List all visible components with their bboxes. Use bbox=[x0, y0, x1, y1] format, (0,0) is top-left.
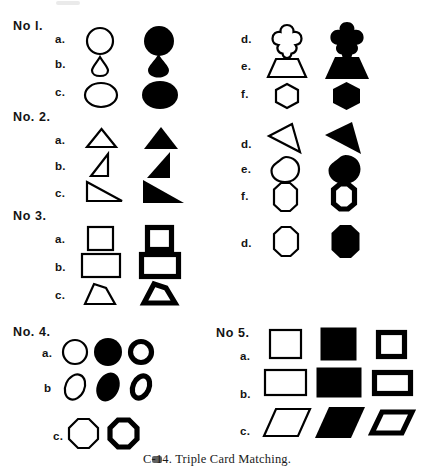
shape-no3-a-outline bbox=[86, 225, 115, 252]
shape-no2-c-outline bbox=[84, 180, 124, 203]
shape-no3-d-solid bbox=[330, 224, 361, 259]
shape-no2-d-outline bbox=[266, 122, 302, 154]
row-label-no2-e: e. bbox=[241, 163, 251, 175]
shape-no1-a-solid bbox=[143, 25, 175, 57]
group-label-no-1: No l. bbox=[13, 19, 43, 33]
shape-no4-b-thick bbox=[128, 372, 154, 402]
shape-no1-d-outline bbox=[269, 22, 305, 60]
shape-no2-b-outline bbox=[88, 152, 112, 178]
shape-no4-a-outline bbox=[61, 338, 89, 366]
shape-no3-d-outline bbox=[272, 225, 300, 258]
shape-no2-c-solid bbox=[142, 179, 185, 204]
shape-no1-a-outline bbox=[85, 26, 115, 56]
shape-no4-c-thick bbox=[106, 416, 141, 451]
shape-no4-a-solid bbox=[93, 337, 123, 367]
shape-no2-a-outline bbox=[85, 127, 118, 149]
row-label-no1-f: f. bbox=[241, 88, 249, 100]
shape-no1-e-outline bbox=[266, 57, 308, 79]
group-label-no-2: No. 2. bbox=[13, 110, 51, 124]
row-label-no4-c: c. bbox=[53, 430, 63, 442]
shape-no1-c-solid bbox=[141, 80, 179, 110]
shape-no3-c-outline bbox=[82, 280, 120, 306]
shape-no5-a-outline bbox=[268, 328, 303, 360]
shape-no2-f-outline bbox=[272, 181, 299, 213]
shape-no5-b-solid bbox=[316, 367, 362, 398]
shape-no2-f-thick bbox=[330, 180, 358, 213]
row-label-no3-d: d. bbox=[241, 237, 252, 249]
shape-no1-b-outline bbox=[90, 55, 110, 77]
row-label-no4-a: a. bbox=[42, 347, 52, 359]
shape-no3-c-thick bbox=[140, 279, 181, 307]
shape-no5-c-solid bbox=[314, 406, 366, 439]
shape-no5-a-solid bbox=[320, 327, 357, 361]
shape-no5-c-thick bbox=[368, 408, 416, 437]
group-label-no-5: No 5. bbox=[216, 326, 250, 340]
shape-no1-b-solid bbox=[147, 54, 170, 78]
row-label-no2-c: c. bbox=[55, 187, 65, 199]
row-label-no5-a: a. bbox=[240, 350, 250, 362]
row-label-no5-c: c. bbox=[240, 425, 250, 437]
shape-no1-d-solid bbox=[327, 21, 367, 61]
shape-no3-b-thick bbox=[138, 251, 182, 280]
row-label-no1-d: d. bbox=[241, 33, 252, 45]
figure-page: No l. a. b. c. d. e. f. No. 2. a. bbox=[0, 0, 428, 473]
shape-no5-b-thick bbox=[371, 369, 414, 397]
group-label-no-3: No 3. bbox=[13, 209, 47, 223]
shape-no4-b-outline bbox=[62, 372, 88, 402]
row-label-no1-c: c. bbox=[55, 86, 65, 98]
shape-no1-f-outline bbox=[273, 82, 301, 110]
shape-no5-a-thick bbox=[375, 329, 408, 360]
row-label-no5-b: b. bbox=[240, 388, 251, 400]
scan-artifact bbox=[56, 1, 80, 5]
shape-no2-b-solid bbox=[146, 151, 173, 179]
row-label-no2-b: b. bbox=[55, 160, 66, 172]
row-label-no3-b: b. bbox=[55, 261, 66, 273]
shape-no1-c-outline bbox=[83, 81, 119, 109]
shape-no4-c-outline bbox=[67, 417, 100, 450]
group-label-no-4: No. 4. bbox=[13, 325, 51, 339]
shape-no5-c-outline bbox=[262, 407, 312, 438]
shape-no4-b-solid bbox=[94, 371, 122, 403]
shape-no3-b-outline bbox=[80, 252, 122, 279]
row-label-no2-d: d. bbox=[241, 138, 252, 150]
shape-no5-b-outline bbox=[263, 368, 308, 397]
figure-caption: C-14. Triple Card Matching. bbox=[143, 452, 291, 467]
row-label-no4-b: b bbox=[44, 382, 51, 394]
row-label-no1-a: a. bbox=[55, 33, 65, 45]
row-label-no1-b: b. bbox=[55, 58, 66, 70]
shape-no2-e-outline bbox=[269, 155, 301, 184]
row-label-no2-a: a. bbox=[55, 134, 65, 146]
shape-no3-a-thick bbox=[144, 224, 175, 253]
row-label-no3-c: c. bbox=[55, 289, 65, 301]
row-label-no3-a: a. bbox=[55, 233, 65, 245]
shape-no1-e-solid bbox=[324, 56, 370, 80]
shape-no2-d-solid bbox=[324, 121, 363, 155]
row-label-no1-e: e. bbox=[241, 60, 251, 72]
shape-no2-a-solid bbox=[143, 126, 179, 150]
shape-no4-a-thick bbox=[127, 338, 155, 366]
shape-no1-f-solid bbox=[331, 81, 362, 111]
row-label-no2-f: f. bbox=[241, 190, 249, 202]
